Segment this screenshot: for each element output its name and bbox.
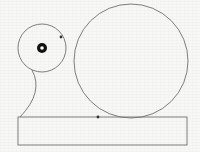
large-wheel xyxy=(74,4,188,118)
support-arm xyxy=(20,70,36,117)
diagram-svg xyxy=(0,0,200,152)
mechanism-diagram xyxy=(0,0,200,152)
base-block xyxy=(18,117,187,145)
circle-circle-contact-dot xyxy=(60,36,63,39)
circle-base-contact-dot xyxy=(97,116,100,119)
pivot-hole xyxy=(40,46,44,50)
